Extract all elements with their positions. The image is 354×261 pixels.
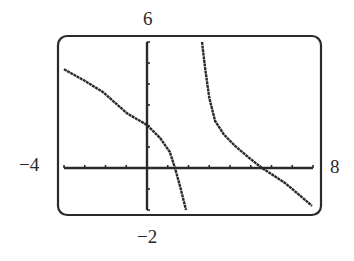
graphing-calculator-plot <box>0 0 354 261</box>
axes <box>64 42 313 210</box>
ymin-label: −2 <box>137 227 157 246</box>
xmax-label: 8 <box>330 157 340 176</box>
ymax-label: 6 <box>143 9 153 28</box>
right-branch-curve <box>202 42 312 206</box>
left-branch-curve <box>64 69 186 210</box>
function-curves <box>64 42 312 210</box>
viewing-window-frame <box>58 36 321 215</box>
xmin-label: −4 <box>19 155 39 174</box>
